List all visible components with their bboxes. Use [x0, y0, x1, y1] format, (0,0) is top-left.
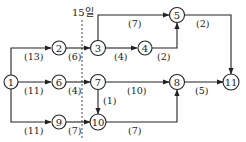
node-7: 7 — [91, 75, 106, 90]
edge-4-5 — [152, 23, 177, 48]
node-8: 8 — [170, 75, 185, 90]
duration-6-7: (4) — [68, 85, 81, 96]
duration-10-8: (7) — [128, 125, 141, 136]
node-3-label: 3 — [95, 43, 101, 54]
node-2-label: 2 — [56, 43, 62, 54]
duration-1-2: (13) — [24, 51, 44, 62]
duration-9-10: (7) — [68, 125, 81, 136]
node-2: 2 — [52, 41, 66, 55]
node-1-label: 1 — [8, 77, 14, 88]
node-4: 4 — [138, 41, 152, 55]
node-10-label: 10 — [92, 117, 105, 128]
node-7-label: 7 — [95, 77, 101, 88]
node-1: 1 — [4, 75, 18, 89]
node-10: 10 — [90, 114, 106, 130]
duration-7-8: (10) — [127, 85, 147, 96]
node-11: 11 — [223, 74, 239, 90]
node-6: 6 — [52, 75, 66, 89]
duration-1-6: (11) — [24, 85, 44, 96]
node-5-label: 5 — [174, 10, 180, 21]
milestone-label: 15일 — [72, 7, 94, 18]
duration-2-3: (6) — [68, 51, 81, 62]
duration-4-5: (2) — [157, 51, 170, 62]
node-6-label: 6 — [56, 77, 62, 88]
node-11-label: 11 — [225, 77, 238, 88]
edges — [11, 15, 231, 122]
node-3: 3 — [91, 41, 106, 56]
node-5: 5 — [170, 8, 185, 23]
duration-3-4: (4) — [114, 51, 127, 62]
activity-network-diagram: 15일 (13) (11) (11) (6) — [0, 0, 246, 142]
duration-3-5: (7) — [128, 18, 141, 29]
duration-5-11: (2) — [196, 18, 209, 29]
duration-1-9: (11) — [24, 125, 44, 136]
node-8-label: 8 — [174, 77, 180, 88]
duration-7-10: (1) — [103, 95, 116, 106]
duration-8-11: (5) — [195, 85, 208, 96]
node-9: 9 — [52, 115, 66, 129]
node-9-label: 9 — [56, 117, 62, 128]
node-4-label: 4 — [142, 43, 148, 54]
